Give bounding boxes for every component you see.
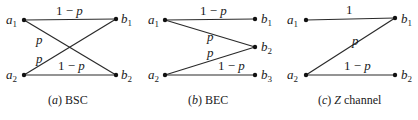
caption-z-channel: (c)Zchannel	[318, 93, 382, 107]
node-a2	[163, 73, 167, 77]
node-b1	[114, 17, 118, 21]
channel-diagrams: a1 a2 b1 b2 1 − p p p 1 − p (a)BSC a1 a2…	[0, 0, 418, 120]
label-a1: a1	[6, 12, 17, 29]
caption-bec: (b)BEC	[188, 93, 228, 107]
label-b1: b1	[261, 11, 272, 28]
node-a2	[304, 73, 308, 77]
edge-label-a2-b1: p	[35, 51, 43, 66]
label-a2: a2	[287, 67, 298, 84]
edge-label-a1-b1: 1 − p	[200, 3, 227, 18]
node-b1	[253, 17, 257, 21]
node-b2	[253, 45, 257, 49]
label-b1: b1	[401, 11, 412, 28]
panel-bec: a1 a2 b1 b2 b3 1 − p p p 1 − p (b)BEC	[148, 3, 273, 107]
edge-label-a2-b1: p	[351, 33, 359, 48]
node-a1	[304, 18, 308, 22]
caption-bsc: (a)BSC	[48, 93, 88, 107]
label-b1: b1	[121, 11, 132, 28]
edge-a1-b1	[24, 19, 116, 20]
panel-bsc: a1 a2 b1 b2 1 − p p p 1 − p (a)BSC	[6, 3, 132, 107]
label-b3: b3	[261, 67, 273, 84]
label-a2: a2	[6, 67, 17, 84]
label-b2: b2	[261, 39, 272, 56]
label-a1: a1	[287, 12, 298, 29]
panel-z-channel: a1 a2 b1 b2 1 p 1 − p (c)Zchannel	[287, 2, 412, 107]
edge-label-a2-b2: 1 − p	[58, 58, 85, 73]
label-a2: a2	[148, 67, 159, 84]
node-a1	[22, 18, 26, 22]
edge-label-a1-b1: 1	[346, 2, 353, 17]
edge-a1-b1	[165, 19, 255, 20]
edge-label-a2-b2: p	[206, 45, 214, 60]
node-b3	[253, 73, 257, 77]
node-b1	[393, 16, 397, 20]
node-b2	[393, 73, 397, 77]
label-b2: b2	[121, 67, 132, 84]
edge-label-a1-b2: p	[206, 29, 214, 44]
edge-label-a1-b2: p	[35, 32, 43, 47]
label-b2: b2	[401, 67, 412, 84]
node-a1	[163, 18, 167, 22]
edge-label-a1-b1: 1 − p	[56, 3, 83, 18]
label-a1: a1	[148, 12, 159, 29]
edge-a1-b1	[306, 18, 395, 20]
edge-label-a2-b3: 1 − p	[218, 58, 245, 73]
node-b2	[114, 73, 118, 77]
node-a2	[22, 73, 26, 77]
edge-label-a2-b2: 1 − p	[344, 58, 371, 73]
